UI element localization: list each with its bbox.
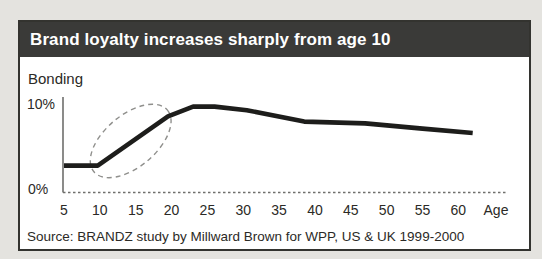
page-background: Brand loyalty increases sharply from age… <box>0 0 542 259</box>
x-tick-label: 5 <box>60 202 68 218</box>
x-tick-label: 55 <box>415 202 431 218</box>
chart-figure: Brand loyalty increases sharply from age… <box>18 20 531 251</box>
figure-title-bar: Brand loyalty increases sharply from age… <box>20 22 529 57</box>
x-tick-label: 30 <box>235 202 251 218</box>
x-tick-label: 60 <box>451 202 467 218</box>
x-tick-label: 15 <box>128 202 144 218</box>
x-tick-label: 20 <box>164 202 180 218</box>
x-tick-label: 45 <box>343 202 359 218</box>
x-tick-label: 50 <box>379 202 395 218</box>
x-tick-label: 10 <box>92 202 108 218</box>
x-axis-title: Age <box>484 202 509 218</box>
x-tick-label: 25 <box>200 202 216 218</box>
figure-title: Brand loyalty increases sharply from age… <box>30 30 391 50</box>
x-tick-label: 40 <box>307 202 323 218</box>
data-line <box>64 107 473 166</box>
source-caption: Source: BRANDZ study by Millward Brown f… <box>27 229 464 244</box>
x-tick-label: 35 <box>271 202 287 218</box>
